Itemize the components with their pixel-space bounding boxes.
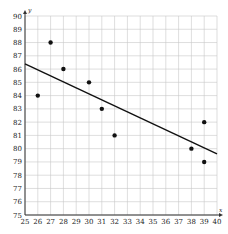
y-tick-label: 85: [13, 79, 22, 87]
y-tick-label: 86: [13, 66, 22, 74]
x-tick-label: 29: [72, 218, 81, 226]
x-tick-label: 34: [136, 218, 145, 226]
x-tick-label: 26: [33, 218, 42, 226]
data-point: [202, 160, 206, 164]
y-tick-label: 80: [13, 145, 22, 153]
y-tick-label: 83: [13, 105, 22, 113]
x-tick-label: 33: [123, 218, 132, 226]
data-point: [189, 146, 193, 150]
data-points: [36, 40, 207, 164]
x-tick-label: 32: [110, 218, 119, 226]
y-tick-label: 88: [13, 39, 22, 47]
data-point: [48, 40, 52, 44]
x-tick-label: 27: [46, 218, 55, 226]
data-point: [100, 107, 104, 111]
y-tick-label: 90: [13, 13, 22, 21]
grid-lines: [25, 16, 217, 215]
x-tick-label: 36: [161, 218, 170, 226]
y-tick-label: 75: [13, 212, 22, 220]
data-point: [202, 120, 206, 124]
y-tick-label: 89: [13, 26, 22, 34]
x-tick-label: 31: [97, 218, 106, 226]
y-tick-label: 84: [13, 92, 22, 100]
y-axis-ticks: 75767778798081828384858687888990: [13, 13, 22, 220]
y-tick-label: 82: [13, 119, 22, 127]
data-point: [112, 133, 116, 137]
x-tick-label: 37: [174, 218, 183, 226]
x-tick-label: 35: [149, 218, 158, 226]
y-tick-label: 79: [13, 158, 22, 166]
y-axis-label: y: [27, 6, 32, 14]
x-tick-label: 28: [59, 218, 68, 226]
y-tick-label: 87: [13, 52, 22, 60]
scatter-plot: 25262728293031323334353637383940 7576777…: [0, 0, 228, 234]
x-tick-label: 30: [85, 218, 94, 226]
axes: [23, 10, 223, 217]
y-tick-label: 76: [13, 198, 22, 206]
data-point: [61, 67, 65, 71]
data-point: [36, 93, 40, 97]
y-tick-label: 77: [13, 185, 22, 193]
x-axis-label: x: [219, 206, 223, 213]
x-tick-label: 39: [200, 218, 209, 226]
data-point: [87, 80, 91, 84]
x-axis-ticks: 25262728293031323334353637383940: [21, 218, 222, 226]
y-tick-label: 81: [13, 132, 22, 140]
x-tick-label: 38: [187, 218, 196, 226]
x-tick-label: 40: [213, 218, 222, 226]
y-tick-label: 78: [13, 172, 22, 180]
